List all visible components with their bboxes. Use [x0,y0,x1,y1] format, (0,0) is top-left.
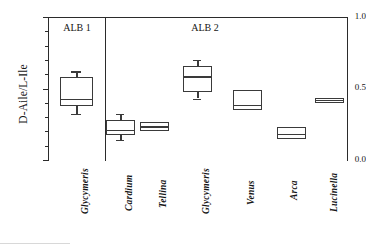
y-tick-label-0.5: 0.5 [340,83,366,92]
species-label-lucinella: Lucinella [329,173,339,212]
boxplot-figure: D-Aile/L-Ile 1.0 0.5 0.0 ALB 1 ALB 2 [0,0,366,245]
y-tick-minor-0.2 [45,131,48,132]
y-tick-major-0.5 [43,89,48,90]
whisker-cap-high-glycymeris-alb2 [193,60,201,61]
box-body-glycymeris-alb1 [60,77,93,106]
y-axis-title: D-Aile/L-Ile [17,19,29,169]
whisker-cap-high-cardium [116,114,124,115]
y-tick-minor-0.4 [45,103,48,104]
species-label-glycymeris-alb1: Glycymeris [80,168,90,214]
species-label-venus: Venus [246,180,256,205]
median-venus [233,105,262,106]
panel-header-rule [48,17,348,18]
y-tick-minor-0.9 [45,31,48,32]
y-tick-minor-0.1 [45,146,48,147]
species-label-arca: Arca [289,180,299,200]
y-axis-spine [48,17,49,161]
box-body-arca [277,127,306,139]
whisker-cap-low-cardium [116,140,124,141]
whisker-cap-low-glycymeris-alb2 [193,99,201,100]
box-body-venus [233,90,262,110]
whisker-cap-low-glycymeris-alb1 [71,114,81,115]
panel-divider-alb1-alb2 [105,17,106,161]
y-tick-minor-0.3 [45,117,48,118]
panel-title-alb2: ALB 2 [180,22,230,33]
box-body-glycymeris-alb2 [183,66,212,92]
y-tick-major-0.0 [43,160,48,161]
box-body-cardium [106,120,135,135]
y-tick-label-0.0: 0.0 [340,155,366,164]
y-tick-minor-0.6 [45,74,48,75]
scan-artifact-line [0,243,70,244]
whisker-cap-high-glycymeris-alb1 [71,71,81,72]
median-arca [277,134,306,135]
median-glycymeris-alb2 [183,76,212,77]
median-tellina [140,126,169,127]
y-tick-minor-0.7 [45,60,48,61]
species-label-glycymeris-alb2: Glycymeris [201,168,211,214]
species-label-tellina: Tellina [158,180,168,209]
median-cardium [106,130,135,131]
species-label-cardium: Cardium [124,175,134,211]
median-lucinella [315,100,344,101]
y-tick-minor-0.8 [45,46,48,47]
plot-right-edge [347,17,348,161]
median-glycymeris-alb1 [60,99,93,100]
panel-title-alb1: ALB 1 [52,22,102,33]
